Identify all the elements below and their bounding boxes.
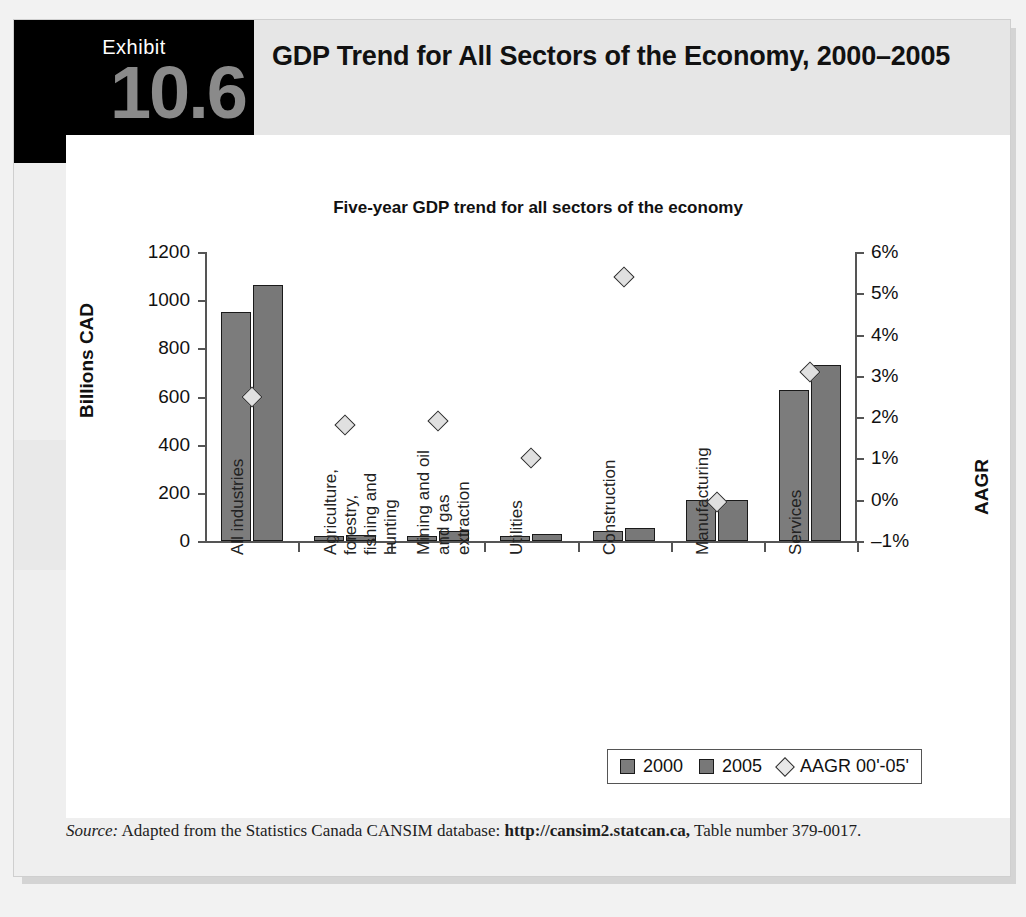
y-tick-label-right: 6% (871, 241, 991, 263)
y-tick-label-right: 0% (871, 489, 991, 511)
y-tick-right (857, 417, 864, 419)
bar-2005 (625, 528, 655, 541)
y-tick-label-right: 3% (871, 365, 991, 387)
x-axis-label: hunting (381, 499, 401, 555)
aagr-marker (334, 415, 355, 436)
plot-area: 020040060080010001200–1%0%1%2%3%4%5%6%Al… (205, 252, 857, 543)
figure-area: Five-year GDP trend for all sectors of t… (66, 135, 1010, 806)
legend-label: 2005 (722, 756, 762, 777)
source-prefix: Source: (66, 821, 118, 840)
aagr-marker (427, 411, 448, 432)
x-axis-label: Agriculture, (321, 469, 341, 555)
y-tick-right (857, 252, 864, 254)
x-axis-label: Manufacturing (693, 447, 713, 555)
x-axis-label: Utilities (507, 500, 527, 555)
x-axis-label: fishing and (361, 473, 381, 555)
bar-2005 (253, 285, 283, 541)
x-tick (857, 543, 859, 552)
square-icon (699, 759, 714, 774)
left-gutter-accent (14, 440, 66, 570)
y-tick-right (857, 335, 864, 337)
y-tick-left (198, 397, 205, 399)
bar-2005 (811, 365, 841, 541)
square-icon (620, 759, 635, 774)
x-tick (484, 543, 486, 552)
chart-title: Five-year GDP trend for all sectors of t… (66, 198, 1010, 218)
y-tick-left (198, 348, 205, 350)
y-tick-left (198, 445, 205, 447)
y-tick-left (198, 493, 205, 495)
y-tick-left (198, 252, 205, 254)
page-title: GDP Trend for All Sectors of the Economy… (272, 40, 972, 74)
y-tick-label-left: 1000 (70, 289, 190, 311)
y-tick-left (198, 541, 205, 543)
x-axis-label: and gas (434, 495, 454, 556)
x-axis-label: Mining and oil (414, 450, 434, 555)
y-tick-right (857, 293, 864, 295)
y-tick-right (857, 376, 864, 378)
y-tick-label-left: 1200 (70, 241, 190, 263)
y-tick-label-right: 5% (871, 282, 991, 304)
legend-label: AAGR 00'-05' (800, 756, 909, 777)
source-url: http://cansim2.statcan.ca, (504, 821, 690, 840)
aagr-marker (614, 266, 635, 287)
bar-2005 (532, 534, 562, 541)
x-tick (578, 543, 580, 552)
x-tick (298, 543, 300, 552)
x-axis-label: extraction (454, 481, 474, 555)
x-axis-label: forestry, (341, 495, 361, 555)
exhibit-page: Exhibit 10.6 GDP Trend for All Sectors o… (0, 0, 1026, 917)
y-tick-label-right: 2% (871, 406, 991, 428)
y-tick-label-left: 600 (70, 386, 190, 408)
source-text-after: Table number 379-0017. (690, 821, 861, 840)
x-axis-label: Services (786, 490, 806, 555)
legend-item[interactable]: AAGR 00'-05' (778, 756, 909, 777)
x-axis (205, 541, 857, 543)
x-axis-label: Construction (600, 460, 620, 555)
y-tick-label-right: 4% (871, 324, 991, 346)
aagr-marker (520, 448, 541, 469)
y-tick-label-left: 800 (70, 337, 190, 359)
source-band-spacer (66, 806, 1010, 818)
exhibit-number: 10.6 (14, 56, 246, 130)
source-text-before: Adapted from the Statistics Canada CANSI… (118, 821, 504, 840)
legend-label: 2000 (643, 756, 683, 777)
y-axis-left (205, 252, 207, 543)
y-tick-right (857, 458, 864, 460)
y-tick-label-left: 200 (70, 482, 190, 504)
y-tick-left (198, 300, 205, 302)
x-axis-label: All industries (228, 459, 248, 555)
x-tick (671, 543, 673, 552)
y-tick-label-right: 1% (871, 447, 991, 469)
x-tick (764, 543, 766, 552)
page-shadow-bottom (22, 876, 1016, 884)
y-tick-label-right: –1% (871, 530, 991, 552)
y-tick-right (857, 500, 864, 502)
legend-item[interactable]: 2000 (620, 756, 683, 777)
source-note: Source: Adapted from the Statistics Cana… (66, 818, 966, 844)
legend-item[interactable]: 2005 (699, 756, 762, 777)
y-tick-label-left: 400 (70, 434, 190, 456)
chart-legend: 20002005AAGR 00'-05' (607, 749, 922, 784)
diamond-icon (775, 757, 795, 777)
y-tick-label-left: 0 (70, 530, 190, 552)
